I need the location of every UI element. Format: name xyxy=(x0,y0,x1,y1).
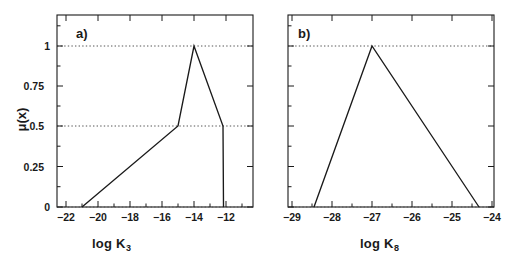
x-tick-label-b-m28: −28 xyxy=(317,211,347,223)
membership-curve-b xyxy=(314,46,479,207)
x-tick-label-a-m14: −14 xyxy=(179,211,209,223)
x-axis-title-a-subscript: 3 xyxy=(126,243,132,253)
x-tick-label-a-m20: −20 xyxy=(83,211,113,223)
y-tick-label-a-1: 1 xyxy=(16,40,50,52)
x-tick-label-b-m27: −27 xyxy=(357,211,387,223)
x-axis-title-b-text: log K xyxy=(360,236,394,251)
x-ticks-b-top xyxy=(292,15,492,21)
y-ticks-a-right xyxy=(247,46,253,207)
y-tick-label-a-025: 0.25 xyxy=(10,161,44,173)
x-axis-title-a: log K3 xyxy=(92,236,131,253)
x-ticks-a xyxy=(66,201,242,207)
y-ticks-a xyxy=(57,26,63,207)
x-tick-label-b-m26: −26 xyxy=(397,211,427,223)
chart-panel-b: b) log K8 −29 −28 −27 −26 −25 −24 xyxy=(262,0,510,267)
x-ticks-b xyxy=(292,201,492,207)
x-tick-label-b-m25: −25 xyxy=(437,211,467,223)
x-tick-label-b-m29: −29 xyxy=(277,211,307,223)
y-tick-label-a-0: 0 xyxy=(16,201,50,213)
x-axis-title-b-subscript: 8 xyxy=(394,243,400,253)
x-ticks-a-top xyxy=(66,15,226,21)
plot-frame-b xyxy=(288,15,494,207)
chart-panel-a: a) μ(x) log K3 0 0.25 0.5 0.75 1 −22 −20… xyxy=(0,0,262,267)
x-tick-label-a-m12: −12 xyxy=(211,211,241,223)
panel-label-a: a) xyxy=(76,26,88,41)
x-tick-label-a-m18: −18 xyxy=(115,211,145,223)
panel-label-b: b) xyxy=(298,26,310,41)
y-tick-label-a-075: 0.75 xyxy=(10,80,44,92)
y-ticks-b-right xyxy=(488,46,494,207)
y-ticks-b xyxy=(288,26,294,207)
figure-canvas: a) μ(x) log K3 0 0.25 0.5 0.75 1 −22 −20… xyxy=(0,0,510,267)
x-tick-label-b-m24: −24 xyxy=(477,211,507,223)
y-tick-label-a-05: 0.5 xyxy=(10,120,44,132)
x-axis-title-b: log K8 xyxy=(360,236,399,253)
x-tick-label-a-m22: −22 xyxy=(51,211,81,223)
x-axis-title-a-text: log K xyxy=(92,236,126,251)
x-tick-label-a-m16: −16 xyxy=(147,211,177,223)
